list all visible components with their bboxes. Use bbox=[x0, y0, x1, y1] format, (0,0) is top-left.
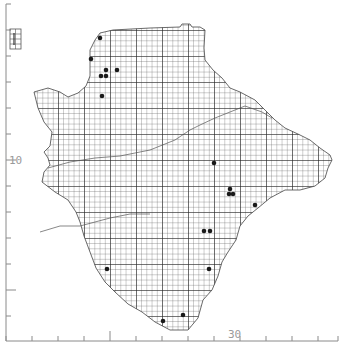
record-dot bbox=[202, 229, 207, 234]
record-dot bbox=[208, 229, 213, 234]
record-dot bbox=[228, 187, 233, 192]
record-dot bbox=[115, 68, 120, 73]
record-dot bbox=[98, 36, 103, 41]
distribution-map: 10 30 bbox=[0, 0, 341, 353]
record-dot bbox=[231, 192, 236, 197]
bottom-axis bbox=[6, 331, 338, 341]
record-dot bbox=[227, 192, 232, 197]
record-dot bbox=[104, 74, 109, 79]
record-dot bbox=[181, 313, 186, 318]
region-grid bbox=[0, 0, 341, 353]
axis-label-10: 10 bbox=[9, 154, 22, 167]
record-dot bbox=[253, 203, 258, 208]
record-dot bbox=[99, 74, 104, 79]
record-dot bbox=[89, 57, 94, 62]
legend-box bbox=[10, 29, 21, 49]
record-dot bbox=[104, 68, 109, 73]
left-axis bbox=[6, 4, 16, 341]
record-dot bbox=[105, 267, 110, 272]
record-dot bbox=[100, 94, 105, 99]
record-dot bbox=[161, 319, 166, 324]
axis-label-30: 30 bbox=[228, 328, 241, 341]
record-dot bbox=[207, 267, 212, 272]
record-dot bbox=[212, 161, 217, 166]
